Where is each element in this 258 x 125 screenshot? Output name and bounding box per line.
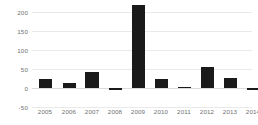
x-tick-label-2008: 2008 [108, 108, 122, 115]
x-tick-label-2007: 2007 [85, 108, 99, 115]
y-tick-label-150: 150 [17, 28, 28, 35]
x-tick-label-2005: 2005 [38, 108, 52, 115]
x-tick-label-2013: 2013 [223, 108, 237, 115]
bar-2005[interactable] [39, 79, 52, 89]
bar-2012[interactable] [201, 67, 214, 88]
x-tick-label-2014: 2014 [246, 108, 258, 115]
bar-series [32, 8, 252, 106]
y-tick-label-minus-50: -50 [19, 104, 28, 111]
bar-2007[interactable] [85, 72, 99, 88]
y-tick-label-100: 100 [17, 47, 28, 54]
bar-chart: 200 150 100 50 0 -50 2005 2006 200 [0, 0, 258, 125]
bar-2013[interactable] [224, 78, 237, 88]
bar-2008[interactable] [109, 88, 122, 90]
y-axis-tick-labels: 200 150 100 50 0 -50 [0, 8, 30, 106]
x-tick-label-2012: 2012 [200, 108, 214, 115]
x-axis-tick-labels: 2005 2006 2007 2008 2009 2010 2011 2012 … [32, 108, 252, 122]
bar-2006[interactable] [63, 83, 76, 88]
bar-2014[interactable] [247, 88, 258, 90]
x-tick-label-2011: 2011 [177, 108, 191, 115]
x-tick-label-2006: 2006 [62, 108, 76, 115]
y-tick-label-0: 0 [24, 85, 28, 92]
bar-2009[interactable] [132, 5, 145, 88]
y-tick-label-50: 50 [21, 66, 28, 73]
x-tick-label-2009: 2009 [131, 108, 145, 115]
bar-2010[interactable] [155, 79, 168, 89]
y-tick-label-200: 200 [17, 9, 28, 16]
plot-area [32, 8, 252, 106]
x-tick-label-2010: 2010 [154, 108, 168, 115]
bar-2011[interactable] [178, 87, 191, 88]
